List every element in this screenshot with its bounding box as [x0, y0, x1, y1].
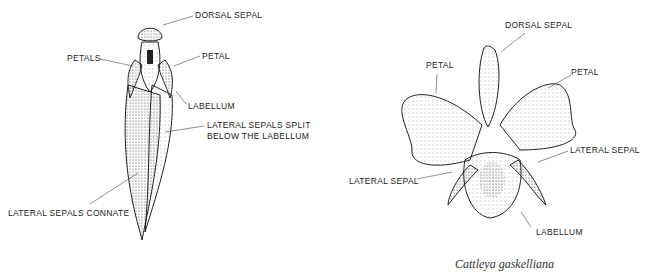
- species-caption: Cattleya gaskelliana: [455, 257, 554, 272]
- label-dorsal-sepal: DORSAL SEPAL: [195, 11, 262, 21]
- label-dorsal-sepal-right: DORSAL SEPAL: [505, 21, 572, 31]
- label-petal-right: PETAL: [571, 68, 599, 78]
- label-lateral-sepals-connate: LATERAL SEPALS CONNATE: [8, 209, 130, 219]
- left-orchid-drawing: [125, 28, 172, 240]
- label-lateral-sepal-left: LATERAL SEPAL: [349, 177, 419, 187]
- label-below-labellum: BELOW THE LABELLUM: [207, 132, 309, 142]
- label-petal-left: PETAL: [426, 61, 454, 71]
- right-orchid-drawing: [402, 46, 576, 218]
- label-lateral-sepals-split: LATERAL SEPALS SPLIT: [207, 121, 311, 131]
- label-petals: PETALS: [67, 54, 101, 64]
- label-labellum: LABELLUM: [188, 102, 235, 112]
- label-labellum-right: LABELLUM: [536, 228, 583, 238]
- label-petal: PETAL: [202, 52, 230, 62]
- label-lateral-sepal-right: LATERAL SEPAL: [570, 146, 640, 156]
